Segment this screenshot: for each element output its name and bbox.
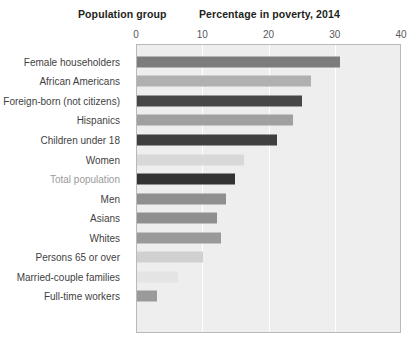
- bar: [137, 232, 221, 243]
- bar-row-label: Total population: [50, 174, 120, 185]
- x-axis-tick: 0: [133, 29, 139, 40]
- x-axis: 010203040: [136, 29, 401, 43]
- bar-row: Female householders: [0, 52, 401, 72]
- x-axis-tick: 10: [197, 29, 208, 40]
- bar-row: Men: [0, 189, 401, 209]
- bar-row: Asians: [0, 208, 401, 228]
- bar-row: Whites: [0, 228, 401, 248]
- bar: [137, 271, 178, 282]
- bar-row-label: Persons 65 or over: [36, 252, 121, 263]
- bar-row-label: Full-time workers: [44, 291, 120, 302]
- bar-row-label: Whites: [89, 232, 120, 243]
- bar-row-label: Married-couple families: [17, 271, 120, 282]
- bar: [137, 291, 157, 302]
- chart-title: Percentage in poverty, 2014: [199, 8, 340, 20]
- column-header-population-group: Population group: [78, 8, 167, 20]
- bar-row: Full-time workers: [0, 287, 401, 307]
- bar-row: Married-couple families: [0, 267, 401, 287]
- x-axis-tick: 30: [329, 29, 340, 40]
- bar-row: Persons 65 or over: [0, 248, 401, 268]
- bar: [137, 95, 302, 106]
- bar-rows: Female householdersAfrican AmericansFore…: [0, 44, 401, 333]
- bar-row-label: Children under 18: [41, 134, 121, 145]
- bar-row-label: Female householders: [24, 56, 120, 67]
- bar-row-label: Asians: [90, 213, 120, 224]
- bar-row: Foreign-born (not citizens): [0, 91, 401, 111]
- bar-row: Women: [0, 150, 401, 170]
- poverty-bar-chart: Population group Percentage in poverty, …: [0, 0, 416, 349]
- bar-row-label: Hispanics: [77, 115, 120, 126]
- bar: [137, 115, 293, 126]
- bar-row-label: Men: [101, 193, 120, 204]
- bar: [137, 213, 217, 224]
- bar: [137, 76, 311, 87]
- x-axis-tick: 20: [263, 29, 274, 40]
- bar-row-label: Foreign-born (not citizens): [3, 95, 120, 106]
- bar-row: Hispanics: [0, 111, 401, 131]
- x-axis-tick: 40: [395, 29, 406, 40]
- bar-row-label: Women: [86, 154, 120, 165]
- bar-row: Children under 18: [0, 130, 401, 150]
- bar: [137, 174, 235, 185]
- bar-row-label: African Americans: [39, 76, 120, 87]
- bar: [137, 154, 244, 165]
- bar: [137, 56, 340, 67]
- bar-row: Total population: [0, 169, 401, 189]
- bar: [137, 134, 277, 145]
- bar: [137, 252, 203, 263]
- bar-row: African Americans: [0, 72, 401, 92]
- bar: [137, 193, 226, 204]
